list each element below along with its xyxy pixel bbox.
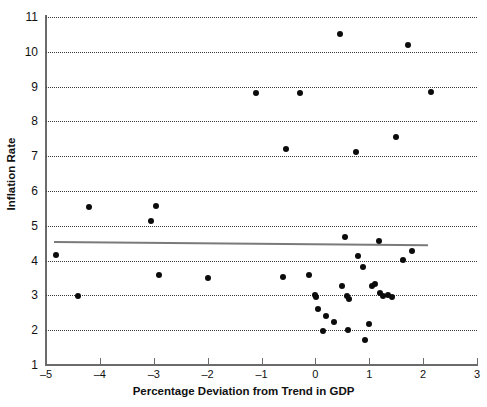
y-axis-label: Inflation Rate — [5, 99, 17, 249]
y-tick-label: 9 — [12, 80, 38, 94]
gridline-y — [46, 295, 477, 296]
data-point — [283, 146, 289, 152]
gridline-y — [46, 121, 477, 122]
x-axis-tick — [423, 358, 424, 366]
y-tick-label: 4 — [12, 254, 38, 268]
data-point — [362, 337, 368, 343]
y-tick-label: 11 — [12, 10, 38, 24]
x-axis-tick — [154, 358, 155, 366]
data-point — [389, 294, 395, 300]
y-tick-label: 2 — [12, 323, 38, 337]
x-tick-label: 0 — [312, 368, 318, 380]
data-point — [75, 293, 81, 299]
data-point — [253, 90, 259, 96]
plot-area — [46, 17, 477, 365]
x-tick-label: 3 — [474, 368, 480, 380]
gridline-y — [46, 17, 477, 18]
gridline-y — [46, 52, 477, 53]
data-point — [331, 319, 337, 325]
data-point — [297, 90, 303, 96]
data-point — [353, 149, 359, 155]
data-point — [393, 134, 399, 140]
x-axis-tick — [100, 358, 101, 366]
data-point — [346, 296, 352, 302]
data-point — [156, 272, 162, 278]
data-point — [428, 89, 434, 95]
trend-line — [54, 241, 428, 246]
data-point — [306, 272, 312, 278]
x-tick-label: –5 — [40, 368, 52, 380]
x-axis-label: Percentage Deviation from Trend in GDP — [0, 385, 487, 397]
data-point — [313, 294, 319, 300]
data-point — [342, 234, 348, 240]
data-point — [205, 275, 211, 281]
x-axis-tick — [315, 358, 316, 366]
data-point — [372, 281, 378, 287]
y-tick-label: 10 — [12, 45, 38, 59]
x-axis-tick — [208, 358, 209, 366]
data-point — [360, 264, 366, 270]
data-point — [148, 218, 154, 224]
data-point — [405, 42, 411, 48]
x-axis-tick — [477, 358, 478, 366]
data-point — [323, 313, 329, 319]
y-tick-label: 3 — [12, 288, 38, 302]
data-point — [345, 327, 351, 333]
x-tick-label: –2 — [202, 368, 214, 380]
data-point — [337, 31, 343, 37]
data-point — [400, 257, 406, 263]
x-axis-tick — [369, 358, 370, 366]
gridline-y — [46, 191, 477, 192]
x-tick-label: 1 — [366, 368, 372, 380]
data-point — [409, 248, 415, 254]
data-point — [53, 252, 59, 258]
x-tick-label: –3 — [148, 368, 160, 380]
x-axis-tick — [262, 358, 263, 366]
data-point — [366, 321, 372, 327]
y-tick-label: 1 — [12, 358, 38, 372]
gridline-y — [46, 156, 477, 157]
gridline-y — [46, 261, 477, 262]
x-tick-label: –1 — [255, 368, 267, 380]
data-point — [280, 274, 286, 280]
data-point — [315, 306, 321, 312]
x-tick-label: –4 — [94, 368, 106, 380]
data-point — [320, 328, 326, 334]
scatter-plot-figure: 1234567891011 –5–4–3–2–10123 Percentage … — [0, 0, 487, 407]
data-point — [339, 283, 345, 289]
gridline-y — [46, 87, 477, 88]
gridline-y — [46, 226, 477, 227]
gridline-y — [46, 330, 477, 331]
data-point — [86, 204, 92, 210]
data-point — [376, 238, 382, 244]
x-tick-label: 2 — [420, 368, 426, 380]
data-point — [355, 253, 361, 259]
data-point — [153, 203, 159, 209]
